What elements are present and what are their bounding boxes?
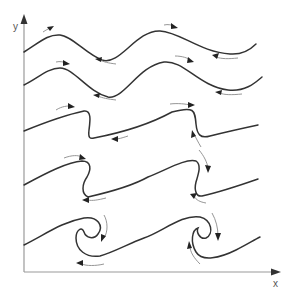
- arrowhead-5d: [187, 241, 192, 249]
- arrowhead-5c: [215, 233, 221, 241]
- x-axis-label: x: [273, 278, 278, 289]
- diagram-canvas: y x: [0, 0, 294, 297]
- y-axis-label: y: [13, 21, 18, 32]
- kelvin-helmholtz-diagram: y x: [0, 0, 294, 297]
- arrowhead-5b: [76, 260, 83, 266]
- stage-4: [24, 150, 258, 203]
- stage-1: [24, 23, 256, 64]
- arrowhead-3c: [188, 102, 195, 108]
- interface-curve-5: [24, 217, 260, 258]
- arrowhead-2b: [93, 93, 100, 98]
- x-axis-arrowhead: [271, 269, 281, 276]
- flow-arrow-2d: [220, 93, 242, 95]
- flow-arrow-5a: [104, 215, 107, 238]
- arrowhead-3b: [111, 136, 118, 142]
- stage-3: [24, 102, 258, 147]
- arrowhead-1c: [171, 23, 178, 29]
- interface-curve-4: [24, 161, 258, 197]
- arrowhead-1d: [212, 53, 219, 59]
- flow-arrow-4d: [194, 196, 206, 203]
- flow-arrow-4a: [64, 156, 82, 158]
- y-axis-arrowhead: [21, 14, 28, 24]
- flow-arrow-1d: [216, 57, 238, 59]
- stage-2: [24, 56, 262, 100]
- arrowhead-4c: [205, 165, 211, 173]
- arrowhead-3a: [68, 103, 75, 109]
- flow-arrow-5b: [82, 264, 104, 266]
- arrowhead-2a: [63, 60, 70, 66]
- arrowhead-2c: [187, 57, 194, 63]
- interface-curve-3: [24, 109, 258, 138]
- arrowhead-4a: [79, 154, 86, 160]
- flow-arrow-5c: [212, 213, 218, 236]
- interface-curve-2: [24, 62, 262, 97]
- arrowhead-2d: [215, 90, 222, 95]
- flow-arrow-4b: [88, 198, 106, 200]
- interface-curve-1: [24, 31, 256, 61]
- stage-5: [24, 213, 260, 266]
- flow-arrow-3c: [170, 104, 190, 105]
- arrowhead-4b: [82, 197, 89, 203]
- flow-arrow-3a: [56, 106, 70, 110]
